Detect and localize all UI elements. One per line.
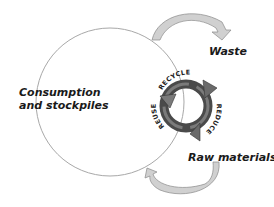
arrow-from-raw-materials [145,162,219,194]
consumption-label-line2: and stockpiles [19,99,109,112]
arrow-to-waste [152,14,231,40]
consumption-label: Consumption and stockpiles [19,86,109,112]
recycle-icon: RECYCLE REDUCE REUSE [150,68,223,141]
waste-label: Waste [209,45,247,58]
raw-materials-label: Raw materials [188,151,274,164]
consumption-label-line1: Consumption [19,86,109,99]
